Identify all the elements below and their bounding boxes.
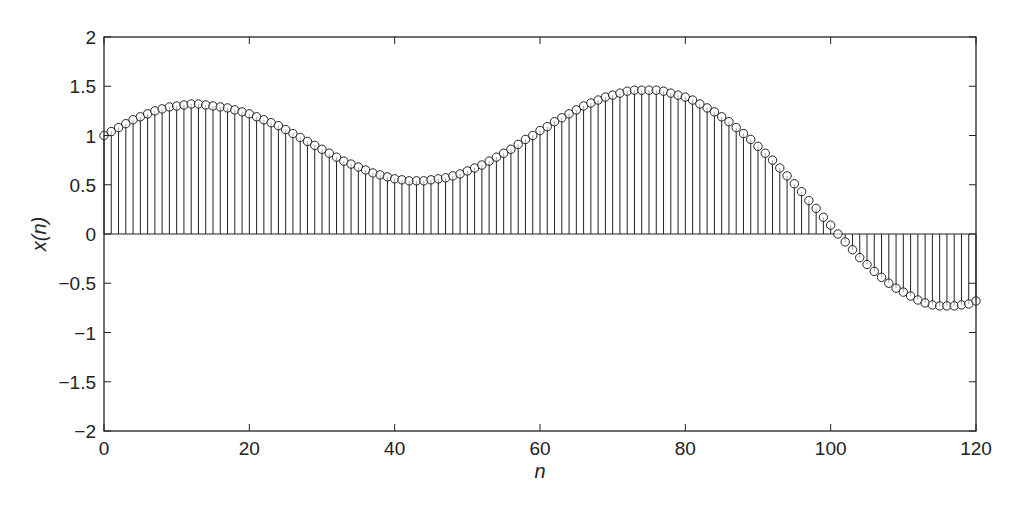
y-tick-label: 2 <box>85 27 96 48</box>
x-axis-ticks: 020406080100120 <box>99 37 992 459</box>
stem-marker <box>848 246 856 254</box>
x-tick-label: 120 <box>960 438 992 459</box>
stem-marker <box>783 172 791 180</box>
stem-marker <box>514 140 522 148</box>
stem-marker <box>754 142 762 150</box>
stem-marker <box>863 260 871 268</box>
y-tick-label: 1 <box>85 126 96 147</box>
x-tick-label: 60 <box>529 438 550 459</box>
stem-marker <box>732 123 740 131</box>
stem-marker <box>739 129 747 137</box>
x-axis-label: n <box>534 460 545 482</box>
y-tick-label: −2 <box>74 421 96 442</box>
stem-marker <box>717 113 725 121</box>
stem-plot: −2−1.5−1−0.500.511.52 020406080100120 n … <box>0 0 1036 507</box>
stem-marker <box>790 180 798 188</box>
stem-marker <box>543 122 551 130</box>
stem-marker <box>805 196 813 204</box>
x-tick-label: 20 <box>239 438 260 459</box>
stem-marker <box>870 267 878 275</box>
stem-marker <box>856 253 864 261</box>
y-axis-label: x(n) <box>28 217 50 252</box>
y-tick-label: −1 <box>74 323 96 344</box>
stem-marker <box>776 164 784 172</box>
x-tick-label: 80 <box>675 438 696 459</box>
stem-marker <box>747 135 755 143</box>
stem-marker <box>877 273 885 281</box>
stem-lines <box>104 90 976 306</box>
stem-marker <box>768 156 776 164</box>
y-tick-label: 1.5 <box>70 76 96 97</box>
y-tick-label: −1.5 <box>58 372 96 393</box>
x-tick-label: 0 <box>99 438 110 459</box>
stem-marker <box>725 118 733 126</box>
stem-marker <box>834 230 842 238</box>
y-tick-label: −0.5 <box>58 273 96 294</box>
x-tick-label: 100 <box>815 438 847 459</box>
y-tick-label: 0 <box>85 224 96 245</box>
stem-marker <box>761 149 769 157</box>
stem-marker <box>710 108 718 116</box>
stem-marker <box>885 279 893 287</box>
stem-marker <box>819 213 827 221</box>
x-tick-label: 40 <box>384 438 405 459</box>
stem-marker <box>507 145 515 153</box>
stem-marker <box>529 131 537 139</box>
stem-marker <box>841 238 849 246</box>
y-tick-label: 0.5 <box>70 175 96 196</box>
stem-marker <box>797 187 805 195</box>
stem-marker <box>826 221 834 229</box>
stem-marker <box>812 204 820 212</box>
